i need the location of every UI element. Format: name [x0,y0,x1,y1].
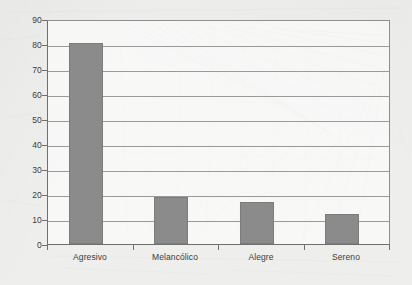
y-tick-label: 70 [16,66,42,75]
y-tick-label: 80 [16,41,42,50]
x-tick-mark [304,245,305,250]
y-tick-label: 40 [16,141,42,150]
y-tick-label: 0 [16,241,42,250]
plot-area [47,20,390,245]
bar-agresivo[interactable] [69,43,103,244]
x-tick-mark [133,245,134,250]
bar-melancolico[interactable] [154,197,188,244]
x-tick-mark [47,245,48,250]
x-tick-mark [389,245,390,250]
y-tick-label: 20 [16,191,42,200]
bar-alegre[interactable] [240,202,274,244]
y-tick-label: 90 [16,16,42,25]
x-tick-label-alegre: Alegre [248,253,273,262]
y-tick-label: 50 [16,116,42,125]
x-tick-label-sereno: Sereno [332,253,360,262]
x-tick-label-agresivo: Agresivo [73,253,107,262]
x-tick-label-melancolico: Melancólico [152,253,198,262]
bar-sereno[interactable] [325,214,359,244]
x-tick-mark [218,245,219,250]
scanned-page: 90 80 70 60 50 40 30 20 10 0 [0,0,412,285]
y-axis: 90 80 70 60 50 40 30 20 10 0 [12,20,42,245]
y-tick-label: 60 [16,91,42,100]
y-tick-label: 30 [16,166,42,175]
y-tick-label: 10 [16,216,42,225]
